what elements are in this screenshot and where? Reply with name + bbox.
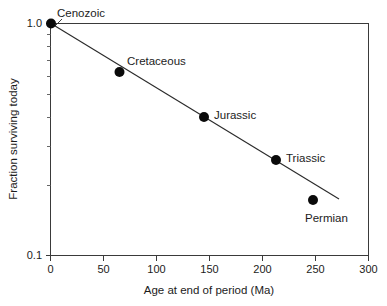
cenozoic-leader-line (55, 19, 62, 26)
point-label-jurassic: Jurassic (214, 109, 256, 121)
point-label-cretaceous: Cretaceous (127, 55, 186, 67)
x-axis-title: Age at end of period (Ma) (144, 284, 275, 296)
x-tick-label-50: 50 (97, 263, 109, 275)
datapoint-jurassic[interactable] (199, 112, 209, 122)
x-tick-label-200: 200 (253, 263, 271, 275)
y-tick-label-1: 1.0 (27, 17, 42, 29)
x-axis-ticks (51, 256, 369, 262)
point-label-cenozoic: Cenozoic (57, 7, 105, 19)
x-tick-label-0: 0 (47, 263, 53, 275)
y-axis-major-ticks (46, 24, 51, 256)
datapoint-triassic[interactable] (271, 155, 281, 165)
datapoint-permian[interactable] (308, 195, 318, 205)
x-tick-label-250: 250 (306, 263, 324, 275)
y-tick-label-0: 0.1 (27, 249, 42, 261)
x-tick-label-100: 100 (147, 263, 165, 275)
chart-figure: 1.0 0.1 0 50 100 150 200 250 300 Age at … (0, 0, 387, 306)
datapoint-cenozoic[interactable] (46, 19, 56, 29)
scatter-plot-canvas: 1.0 0.1 0 50 100 150 200 250 300 Age at … (0, 0, 387, 306)
x-tick-label-300: 300 (359, 263, 377, 275)
point-label-triassic: Triassic (286, 152, 325, 164)
point-label-permian: Permian (305, 212, 348, 224)
datapoint-cretaceous[interactable] (115, 67, 125, 77)
trend-line (51, 24, 339, 200)
x-tick-label-150: 150 (200, 263, 218, 275)
y-axis-title: Fraction surviving today (7, 78, 19, 200)
